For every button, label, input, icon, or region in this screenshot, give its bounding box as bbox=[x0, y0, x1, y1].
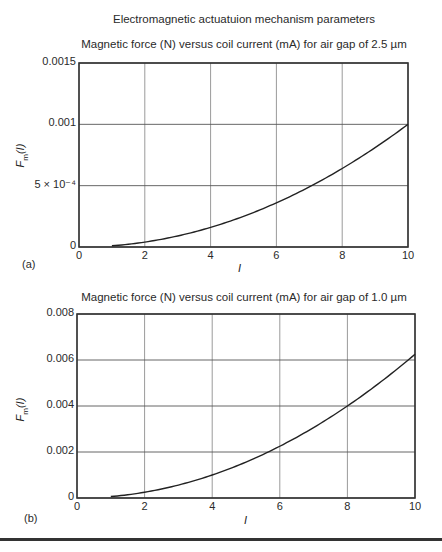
chart-b-x-axis-label: I bbox=[244, 514, 247, 526]
chart-a-frame bbox=[79, 63, 408, 247]
chart-b-y-tick-label: 0.006 bbox=[46, 352, 74, 364]
chart-a-x-tick-label: 10 bbox=[402, 249, 414, 261]
chart-b-x-tick-label: 4 bbox=[209, 500, 215, 512]
chart-b-x-tick-label: 2 bbox=[142, 500, 148, 512]
chart-b-y-tick-label: 0.008 bbox=[46, 306, 74, 318]
chart-b-panel-label: (b) bbox=[24, 512, 37, 524]
chart-a-y-tick-label: 0.001 bbox=[48, 116, 76, 128]
chart-a-x-tick-label: 4 bbox=[208, 249, 214, 261]
chart-a-grid bbox=[79, 63, 408, 247]
chart-b-x-tick-label: 10 bbox=[409, 500, 421, 512]
chart-a-x-axis-label: I bbox=[238, 262, 241, 274]
chart-a-y-tick-label: 0.0015 bbox=[42, 55, 76, 67]
chart-a-plot-area bbox=[0, 0, 442, 552]
chart-a-x-tick-label: 6 bbox=[273, 249, 279, 261]
chart-b-y-axis-label: Fm(I) bbox=[14, 398, 29, 422]
chart-b-y-tick-label: 0.002 bbox=[46, 444, 74, 456]
chart-a-x-tick-label: 0 bbox=[76, 249, 82, 261]
chart-b-x-tick-label: 0 bbox=[74, 500, 80, 512]
chart-b-y-tick-label: 0.004 bbox=[46, 398, 74, 410]
chart-b-x-tick-label: 8 bbox=[344, 500, 350, 512]
chart-a-x-tick-label: 8 bbox=[339, 249, 345, 261]
bottom-divider bbox=[0, 538, 442, 541]
chart-b-title: Magnetic force (N) versus coil current (… bbox=[81, 291, 407, 303]
chart-b-x-tick-label: 6 bbox=[277, 500, 283, 512]
chart-b-grid bbox=[77, 314, 415, 498]
chart-b-series-line bbox=[111, 354, 415, 496]
chart-a-y-axis-label: Fm(I) bbox=[14, 144, 29, 168]
chart-a-series-line bbox=[112, 124, 408, 245]
chart-a-panel-label: (a) bbox=[22, 258, 35, 270]
chart-a-x-tick-label: 2 bbox=[142, 249, 148, 261]
chart-a-y-tick-label: 5 × 10⁻⁴ bbox=[34, 178, 76, 191]
